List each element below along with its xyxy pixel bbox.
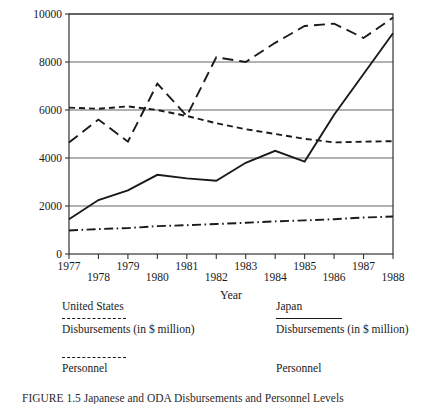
- series-line-japan-disbursements-in-million: [69, 18, 393, 143]
- x-axis-tick-label: 1978: [87, 271, 110, 283]
- legend-label-us-disbursements: Disbursements (in $ million): [62, 322, 252, 336]
- legend-label-japan-personnel: Personnel: [276, 361, 433, 375]
- x-axis-tick-label: 1984: [264, 271, 287, 283]
- series-line-united-states-disbursements-in-million: [69, 106, 393, 142]
- x-axis-tick-label: 1983: [234, 260, 257, 272]
- legend-country-label: United States: [62, 300, 252, 313]
- y-axis-tick-label: 10000: [33, 8, 62, 20]
- legend-column-united-states: United States Disbursements (in $ millio…: [62, 300, 252, 375]
- legend-label-japan-disbursements: Disbursements (in $ million): [276, 322, 433, 336]
- y-axis-tick-label: 6000: [39, 104, 62, 116]
- line-chart: 0200040006000800010000197719781979198019…: [0, 0, 433, 300]
- y-axis-tick-label: 0: [56, 248, 62, 260]
- x-axis-tick-label: 1982: [205, 271, 228, 283]
- figure-container: 0200040006000800010000197719781979198019…: [0, 0, 433, 404]
- legend-spacer: [276, 336, 433, 352]
- y-axis-tick-label: 8000: [39, 56, 62, 68]
- x-axis-tick-label: 1977: [58, 260, 81, 272]
- series-line-united-states-personnel: [69, 217, 393, 231]
- x-axis-tick-label: 1987: [352, 260, 375, 272]
- legend-line-sample-us-disbursements: [62, 313, 252, 322]
- y-axis-tick-label: 2000: [39, 200, 62, 212]
- x-axis-tick-label: 1985: [293, 260, 316, 272]
- x-axis-tick-label: 1980: [146, 271, 169, 283]
- chart-legend: United States Disbursements (in $ millio…: [0, 300, 433, 404]
- figure-caption: FIGURE 1.5 Japanese and ODA Disbursement…: [22, 392, 433, 404]
- legend-line-sample-us-personnel: [62, 352, 252, 361]
- x-axis-tick-label: 1986: [323, 271, 346, 283]
- x-axis-title: Year: [220, 288, 242, 300]
- legend-column-japan: Japan Disbursements (in $ million) Perso…: [276, 300, 433, 375]
- legend-line-sample-japan-disbursements: [276, 313, 433, 322]
- y-axis-tick-label: 4000: [39, 152, 62, 164]
- legend-spacer: [62, 336, 252, 352]
- legend-label-us-personnel: Personnel: [62, 361, 252, 375]
- x-axis-tick-label: 1979: [116, 260, 139, 272]
- legend-line-sample-japan-personnel: [276, 352, 433, 361]
- x-axis-tick-label: 1981: [175, 260, 198, 272]
- x-axis-tick-label: 1988: [382, 271, 405, 283]
- legend-country-label: Japan: [276, 300, 433, 313]
